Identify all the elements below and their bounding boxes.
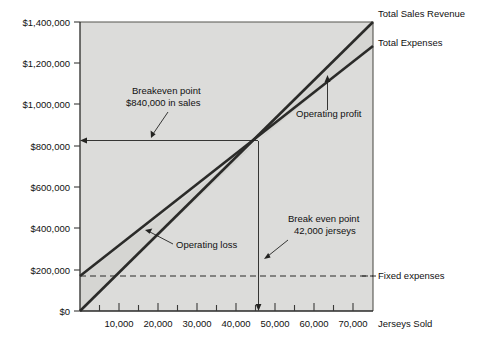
series-label-total-expenses: Total Expenses [378,37,443,48]
breakeven-sales-annotation-line2: $840,000 in sales [126,97,201,108]
operating-profit-label: Operating profit [296,108,362,119]
x-tick-label-50000: 50,000 [260,318,289,329]
y-tick-label-800000: $800,000 [30,141,70,152]
y-tick-label-600000: $600,000 [30,182,70,193]
y-tick-label-1200000: $1,200,000 [22,58,70,69]
series-label-fixed-expenses: Fixed expenses [378,270,445,281]
breakeven-units-annotation-line1: Break even point [288,213,360,224]
y-tick-label-400000: $400,000 [30,223,70,234]
x-tick-label-70000: 70,000 [338,318,367,329]
breakeven-chart: $1,400,000 $1,200,000 $1,000,000 $800,00… [0,0,485,345]
x-tick-label-20000: 20,000 [143,318,172,329]
x-tick-label-40000: 40,000 [221,318,250,329]
breakeven-units-annotation-line2: 42,000 jerseys [294,225,356,236]
x-tick-label-30000: 30,000 [182,318,211,329]
x-axis-title: Jerseys Sold [378,318,432,329]
y-tick-label-1000000: $1,000,000 [22,99,70,110]
x-tick-label-10000: 10,000 [104,318,133,329]
series-label-total-sales-revenue: Total Sales Revenue [378,8,465,19]
breakeven-sales-annotation-line1: Breakeven point [132,85,201,96]
operating-loss-label: Operating loss [176,239,238,250]
x-tick-label-60000: 60,000 [299,318,328,329]
y-tick-label-1400000: $1,400,000 [22,17,70,28]
y-tick-label-0: $0 [59,306,70,317]
y-tick-label-200000: $200,000 [30,265,70,276]
